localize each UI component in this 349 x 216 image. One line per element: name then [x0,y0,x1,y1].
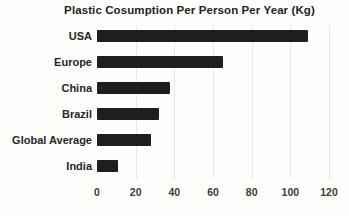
category-label: China [0,75,92,101]
x-tick-label: 120 [320,186,338,198]
bar [97,82,170,94]
category-label: USA [0,23,92,49]
category-label: Global Average [0,127,92,153]
x-tick-label: 20 [130,186,142,198]
bar [97,108,159,120]
category-labels: USAEuropeChinaBrazilGlobal AverageIndia [0,23,92,179]
x-tick-label: 0 [94,186,100,198]
bar [97,30,308,42]
bar-row [97,49,329,75]
bar [97,134,151,146]
category-label: Brazil [0,101,92,127]
bar [97,160,118,172]
x-tick-label: 80 [246,186,258,198]
x-tick-label: 40 [168,186,180,198]
bar [97,56,223,68]
bar-chart-figure: Plastic Cosumption Per Person Per Year (… [0,0,349,216]
bar-row [97,75,329,101]
x-axis: 020406080100120 [97,186,329,202]
gridline [329,25,330,179]
bar-row [97,23,329,49]
category-label: Europe [0,49,92,75]
bar-row [97,153,329,179]
category-label: India [0,153,92,179]
bar-row [97,127,329,153]
x-tick-label: 100 [282,186,300,198]
plot-area [97,23,329,179]
bar-row [97,101,329,127]
x-tick-label: 60 [207,186,219,198]
chart-title: Plastic Cosumption Per Person Per Year (… [30,4,349,16]
